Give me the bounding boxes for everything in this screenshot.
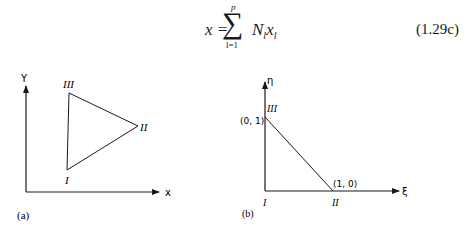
- triangle-element-a: [67, 93, 138, 170]
- coord-label-0-1: (0, 1): [240, 116, 264, 126]
- vertex-label-iii-b: III: [266, 103, 278, 114]
- figure-a: Y x I II III (a): [17, 73, 171, 222]
- hypotenuse: [265, 117, 333, 191]
- vertex-label-i-a: I: [64, 174, 70, 186]
- caption-b: (b): [242, 208, 254, 220]
- xi-axis-label: ξ: [402, 186, 408, 197]
- x-axis-label-a: x: [165, 187, 171, 198]
- figure-b: η ξ III (0, 1) (1, 0) I II (b): [240, 75, 408, 220]
- eta-axis-label: η: [267, 75, 273, 86]
- coord-label-1-0: (1, 0): [333, 179, 357, 189]
- caption-a: (a): [17, 209, 30, 222]
- y-axis-label-a: Y: [20, 73, 28, 84]
- vertex-label-iii-a: III: [62, 78, 75, 90]
- vertex-label-i-b: I: [262, 197, 267, 208]
- vertex-label-ii-a: II: [139, 121, 149, 133]
- vertex-label-ii-b: II: [331, 197, 339, 208]
- diagrams: Y x I II III (a) η ξ III (0, 1) (1, 0) I…: [0, 0, 476, 233]
